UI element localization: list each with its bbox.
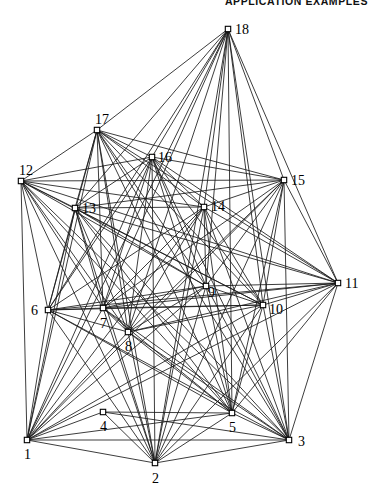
graph-edge <box>232 283 338 413</box>
graph-node-label-13: 13 <box>82 201 96 216</box>
graph-edge <box>232 305 263 413</box>
graph-node-label-1: 1 <box>24 447 31 462</box>
graph-edge <box>103 412 232 413</box>
graph-edge <box>228 29 289 440</box>
graph-node-16[interactable] <box>149 154 154 159</box>
graph-node-label-6: 6 <box>31 303 38 318</box>
graph-node-label-15: 15 <box>291 173 305 188</box>
edge-layer <box>21 29 338 463</box>
graph-node-4[interactable] <box>100 409 105 414</box>
graph-node-label-4: 4 <box>100 419 107 434</box>
graph-node-18[interactable] <box>225 26 230 31</box>
node-label-layer: 123456789101112131415161718 <box>19 22 358 486</box>
graph-drawing: 123456789101112131415161718 <box>0 0 374 501</box>
graph-edge <box>21 181 289 440</box>
graph-node-label-7: 7 <box>100 316 107 331</box>
graph-edge <box>21 181 27 440</box>
graph-node-label-14: 14 <box>211 199 225 214</box>
graph-node-7[interactable] <box>100 305 105 310</box>
graph-edge <box>48 29 228 310</box>
graph-edge <box>155 29 228 463</box>
graph-node-label-2: 2 <box>152 471 159 486</box>
graph-node-14[interactable] <box>201 204 206 209</box>
graph-node-label-12: 12 <box>19 163 33 178</box>
graph-node-5[interactable] <box>229 410 234 415</box>
graph-node-label-9: 9 <box>208 285 215 300</box>
graph-node-label-3: 3 <box>298 434 305 449</box>
graph-edge <box>206 286 232 413</box>
graph-node-12[interactable] <box>18 178 23 183</box>
graph-node-label-16: 16 <box>158 150 172 165</box>
graph-node-3[interactable] <box>286 437 291 442</box>
graph-edge <box>97 130 284 180</box>
graph-node-8[interactable] <box>125 329 130 334</box>
graph-node-label-11: 11 <box>345 276 358 291</box>
graph-edge <box>97 29 228 130</box>
figure-root: APPLICATION EXAMPLES 1234567891011121314… <box>0 0 374 501</box>
graph-node-1[interactable] <box>24 437 29 442</box>
graph-edge <box>21 180 284 181</box>
graph-edge <box>103 308 289 440</box>
graph-edge <box>228 29 284 180</box>
graph-node-label-18: 18 <box>235 22 249 37</box>
graph-node-11[interactable] <box>335 280 340 285</box>
graph-node-6[interactable] <box>45 307 50 312</box>
graph-node-17[interactable] <box>94 127 99 132</box>
graph-edge <box>155 305 263 463</box>
graph-node-10[interactable] <box>260 302 265 307</box>
graph-node-2[interactable] <box>152 460 157 465</box>
graph-edge <box>103 283 338 308</box>
graph-edge <box>27 440 155 463</box>
graph-node-label-8: 8 <box>125 339 132 354</box>
graph-node-label-17: 17 <box>95 112 109 127</box>
graph-edge <box>21 181 155 463</box>
graph-node-15[interactable] <box>281 177 286 182</box>
graph-node-label-5: 5 <box>229 420 236 435</box>
graph-node-label-10: 10 <box>269 302 283 317</box>
graph-edge <box>152 29 228 157</box>
graph-node-13[interactable] <box>72 205 77 210</box>
graph-edge <box>27 308 103 440</box>
graph-edge <box>128 305 263 332</box>
